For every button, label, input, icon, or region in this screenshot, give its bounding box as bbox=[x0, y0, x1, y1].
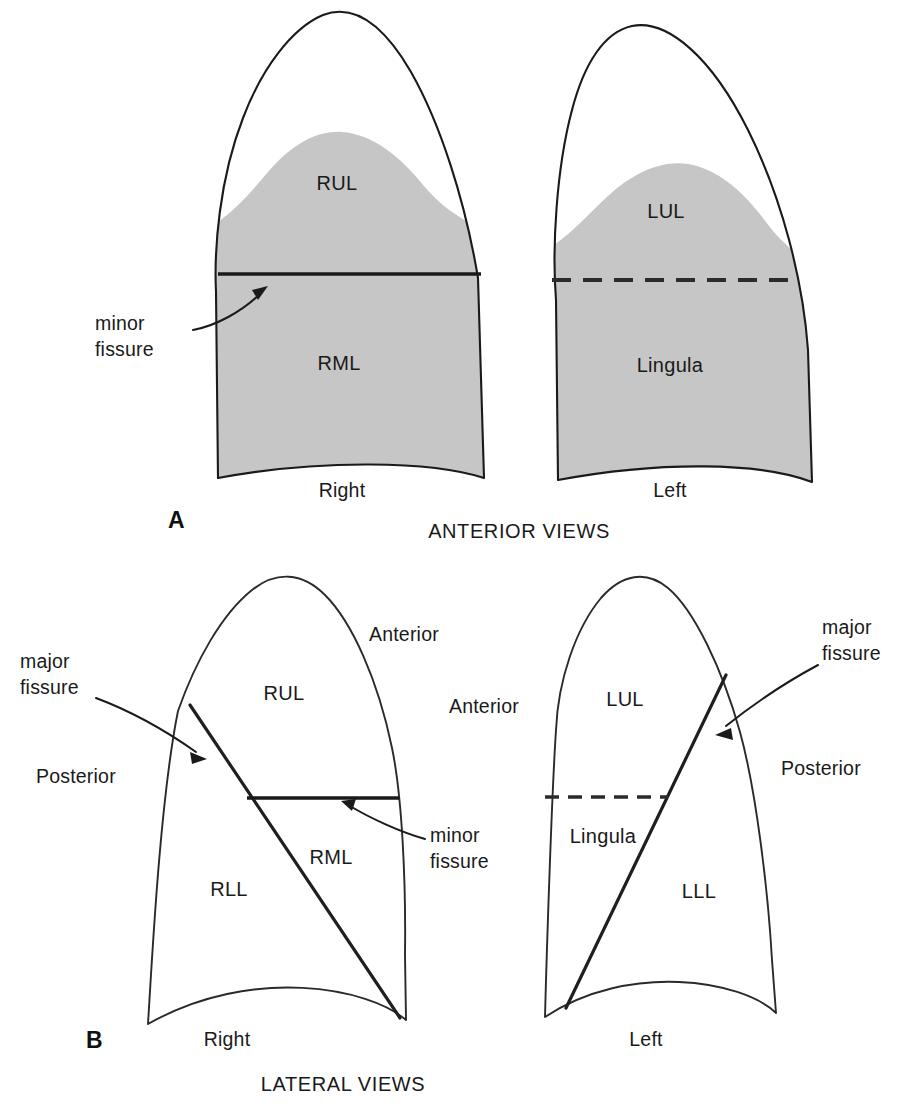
right-lateral-major-fissure bbox=[190, 705, 400, 1018]
label-rml-lateral: RML bbox=[309, 846, 352, 868]
panel-label-b: B bbox=[86, 1027, 103, 1053]
label-lul-anterior: LUL bbox=[647, 200, 685, 222]
annotation-major-fissure-b-left: major fissure bbox=[715, 616, 881, 740]
panel-b-right-lung: RUL RML RLL Right bbox=[148, 577, 406, 1050]
minor-fissure-label-line2-b: fissure bbox=[430, 850, 489, 872]
minor-fissure-label-line1-a: minor bbox=[95, 312, 145, 334]
panel-label-a: A bbox=[168, 507, 185, 533]
panel-b-left-lung: LUL Lingula LLL Left bbox=[545, 577, 776, 1050]
label-lingula-lateral: Lingula bbox=[570, 825, 637, 847]
label-rml-anterior: RML bbox=[317, 352, 360, 374]
label-lul-lateral: LUL bbox=[606, 688, 644, 710]
label-right-anterior: Right bbox=[319, 479, 366, 501]
label-left-anterior: Left bbox=[653, 479, 687, 501]
label-right-lateral: Right bbox=[204, 1028, 251, 1050]
caption-anterior-views: ANTERIOR VIEWS bbox=[428, 520, 610, 542]
label-lingula-anterior: Lingula bbox=[637, 354, 704, 376]
major-fissure-arrowhead-b-left bbox=[715, 728, 733, 740]
label-anterior-left-lateral: Anterior bbox=[449, 695, 519, 717]
caption-lateral-views: LATERAL VIEWS bbox=[261, 1073, 426, 1095]
major-fissure-label-line2-b-right: fissure bbox=[20, 676, 79, 698]
label-anterior-right-lateral: Anterior bbox=[369, 623, 439, 645]
minor-fissure-leader-b bbox=[350, 806, 425, 839]
major-fissure-arrowhead-b-right bbox=[190, 752, 207, 764]
label-rul-anterior: RUL bbox=[317, 172, 358, 194]
major-fissure-label-line2-b-left: fissure bbox=[822, 642, 881, 664]
minor-fissure-label-line2-a: fissure bbox=[95, 338, 154, 360]
diagram-canvas: RUL RML Right minor fissure LUL Lingula … bbox=[0, 0, 915, 1107]
label-lll-lateral: LLL bbox=[682, 880, 716, 902]
label-left-lateral: Left bbox=[629, 1028, 663, 1050]
panel-a-left-lung: LUL Lingula Left bbox=[545, 25, 820, 501]
panel-a: RUL RML Right minor fissure LUL Lingula … bbox=[95, 12, 820, 542]
minor-fissure-label-line1-b: minor bbox=[430, 824, 480, 846]
right-lateral-lung-outline bbox=[148, 577, 406, 1024]
label-rll-lateral: RLL bbox=[210, 878, 248, 900]
label-posterior-left-lateral: Posterior bbox=[781, 757, 861, 779]
annotation-minor-fissure-b: minor fissure bbox=[341, 799, 489, 872]
lung-lobe-diagram: RUL RML Right minor fissure LUL Lingula … bbox=[0, 0, 915, 1107]
major-fissure-leader-b-left bbox=[726, 665, 818, 726]
label-posterior-right-lateral: Posterior bbox=[36, 765, 116, 787]
label-rul-lateral: RUL bbox=[264, 682, 305, 704]
major-fissure-label-line1-b-right: major bbox=[20, 650, 70, 672]
panel-b: RUL RML RLL Right Anterior Posterior maj… bbox=[20, 577, 881, 1095]
major-fissure-leader-b-right bbox=[96, 698, 196, 752]
panel-a-right-lung: RUL RML Right bbox=[205, 12, 492, 501]
major-fissure-label-line1-b-left: major bbox=[822, 616, 872, 638]
